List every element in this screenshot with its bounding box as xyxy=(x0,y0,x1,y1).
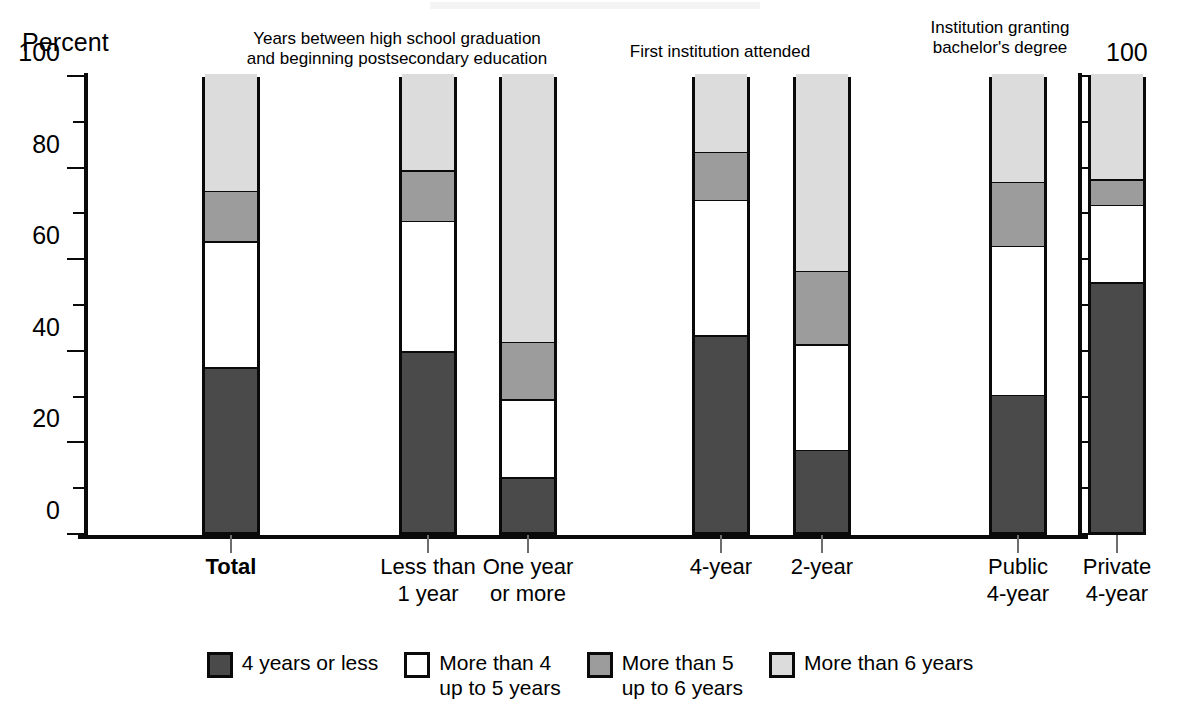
left-tick-70 xyxy=(73,212,84,214)
scan-artifact xyxy=(430,2,760,9)
bar-segment-3 xyxy=(205,74,257,191)
legend-label: More than 4 up to 5 years xyxy=(439,650,560,700)
left-tick-label-80: 80 xyxy=(32,131,60,156)
x-tick xyxy=(1116,535,1118,553)
right-tick-label-100: 100 xyxy=(1106,40,1148,65)
group-header-1: Years between high school graduation and… xyxy=(232,29,562,69)
x-axis-label-3: One year or more xyxy=(448,553,608,607)
stacked-bar[interactable] xyxy=(499,77,557,535)
bar-segment-0 xyxy=(1091,282,1143,532)
bar-segment-3 xyxy=(502,74,554,342)
legend-label: More than 6 years xyxy=(804,650,973,675)
bar-segment-2 xyxy=(205,191,257,241)
x-axis-label-5: 2-year xyxy=(742,553,902,580)
bar-segment-1 xyxy=(1091,205,1143,283)
bar-segment-0 xyxy=(205,367,257,532)
x-tick xyxy=(230,535,232,553)
bar-segment-2 xyxy=(695,152,747,200)
bar-segment-3 xyxy=(1091,74,1143,179)
left-tick-10 xyxy=(73,487,84,489)
group-header-3: Institution granting bachelor's degree xyxy=(880,18,1120,58)
bar-segment-1 xyxy=(402,221,454,352)
legend-item-1[interactable]: 4 years or less xyxy=(207,650,379,678)
x-tick xyxy=(427,535,429,553)
plot-area: 020406080100 020406080100 xyxy=(84,77,1082,535)
bar-segment-0 xyxy=(695,335,747,532)
bar-segment-3 xyxy=(992,74,1044,182)
bar-segment-1 xyxy=(796,344,848,449)
left-tick-30 xyxy=(73,396,84,398)
left-tick-80 xyxy=(67,167,84,169)
left-tick-100 xyxy=(67,75,84,77)
x-tick xyxy=(821,535,823,553)
left-tick-90 xyxy=(73,121,84,123)
left-tick-0 xyxy=(67,533,84,535)
bar-segment-2 xyxy=(1091,179,1143,204)
bar-segment-0 xyxy=(502,477,554,532)
legend-swatch-icon xyxy=(587,652,613,678)
bar-segment-0 xyxy=(796,450,848,532)
bar-segment-2 xyxy=(402,170,454,220)
left-tick-label-60: 60 xyxy=(32,223,60,248)
legend-item-2[interactable]: More than 4 up to 5 years xyxy=(404,650,560,700)
x-axis-label-7: Private 4-year xyxy=(1037,553,1180,607)
bar-segment-1 xyxy=(992,246,1044,395)
chart-legend: 4 years or lessMore than 4 up to 5 years… xyxy=(0,650,1180,700)
left-tick-60 xyxy=(67,258,84,260)
bar-segment-3 xyxy=(796,74,848,271)
left-tick-label-20: 20 xyxy=(32,406,60,431)
left-tick-50 xyxy=(73,304,84,306)
x-tick xyxy=(720,535,722,553)
bar-segment-3 xyxy=(695,74,747,152)
x-axis-label-1: Total xyxy=(151,553,311,580)
bar-segment-0 xyxy=(992,395,1044,532)
bar-segment-1 xyxy=(502,399,554,477)
x-tick xyxy=(1017,535,1019,553)
bar-segment-0 xyxy=(402,351,454,532)
right-axis-spine xyxy=(1078,73,1082,539)
stacked-bar[interactable] xyxy=(399,77,457,535)
legend-item-4[interactable]: More than 6 years xyxy=(769,650,973,678)
legend-swatch-icon xyxy=(404,652,430,678)
left-axis-spine xyxy=(84,73,88,539)
bar-segment-2 xyxy=(796,271,848,344)
group-header-2: First institution attended xyxy=(575,42,865,62)
bar-segment-1 xyxy=(205,241,257,367)
legend-item-3[interactable]: More than 5 up to 6 years xyxy=(587,650,743,700)
legend-label: 4 years or less xyxy=(242,650,379,675)
bar-segment-1 xyxy=(695,200,747,335)
bar-segment-3 xyxy=(402,74,454,170)
left-tick-40 xyxy=(67,350,84,352)
bar-segment-2 xyxy=(992,182,1044,246)
legend-swatch-icon xyxy=(207,652,233,678)
stacked-bar[interactable] xyxy=(1088,77,1146,535)
stacked-bar[interactable] xyxy=(989,77,1047,535)
x-tick xyxy=(527,535,529,553)
bar-segment-2 xyxy=(502,342,554,399)
stacked-bar[interactable] xyxy=(692,77,750,535)
legend-swatch-icon xyxy=(769,652,795,678)
legend-label: More than 5 up to 6 years xyxy=(622,650,743,700)
stacked-bar-chart: Percent Years between high school gradua… xyxy=(0,0,1180,728)
stacked-bar[interactable] xyxy=(202,77,260,535)
left-tick-label-0: 0 xyxy=(46,498,60,523)
left-tick-label-100: 100 xyxy=(18,40,60,65)
stacked-bar[interactable] xyxy=(793,77,851,535)
left-tick-20 xyxy=(67,441,84,443)
left-tick-label-40: 40 xyxy=(32,314,60,339)
